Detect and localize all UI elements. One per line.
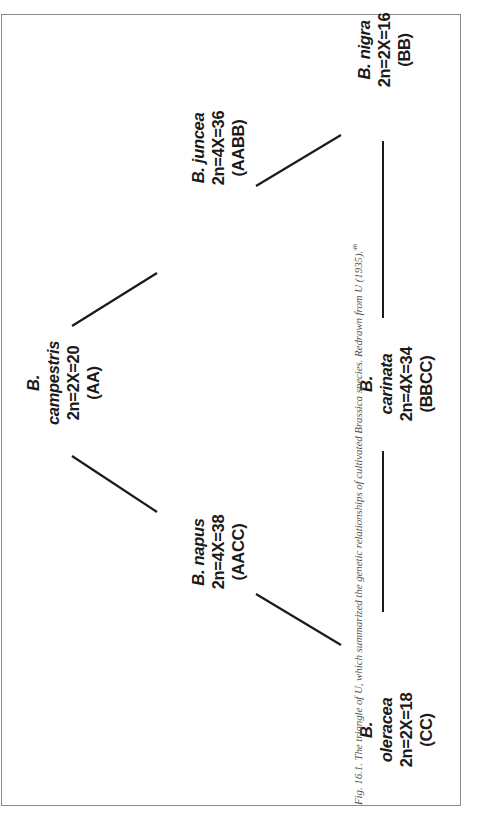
node-genome: (AACC) <box>228 497 248 607</box>
node-genome: (BBCC) <box>416 324 436 444</box>
node-species: campestris <box>43 323 63 443</box>
edge-campestris-napus <box>72 456 157 512</box>
node-genome: (CC) <box>416 670 436 790</box>
node-genus: B. <box>355 64 373 80</box>
node-species: nigra <box>355 20 373 59</box>
node-chromosomes: 2n=4X=34 <box>396 324 416 444</box>
edge-campestris-juncea <box>72 273 157 326</box>
node-oleracea: B. oleracea 2n=2X=18 (CC) <box>356 670 436 790</box>
node-species: carinata <box>376 324 396 444</box>
node-chromosomes: 2n=4X=38 <box>208 497 228 607</box>
node-genome: (BB) <box>394 0 414 105</box>
caption-text: The triangle of U, which summarized the … <box>352 251 364 761</box>
node-napus: B. napus 2n=4X=38 (AACC) <box>188 497 248 607</box>
edge-napus-oleracea <box>256 594 341 645</box>
node-species: oleracea <box>376 670 396 790</box>
node-carinata: B. carinata 2n=4X=34 (BBCC) <box>356 324 436 444</box>
caption-label: Fig. 16.1. <box>352 763 364 805</box>
node-genus: B. <box>189 167 207 183</box>
node-juncea: B. juncea 2n=4X=36 (AABB) <box>188 93 248 203</box>
node-chromosomes: 2n=2X=18 <box>396 670 416 790</box>
node-species: juncea <box>189 113 207 163</box>
node-genome: (AA) <box>83 323 103 443</box>
node-nigra: B. nigra 2n=2X=16 (BB) <box>354 0 414 105</box>
figure-caption: Fig. 16.1. The triangle of U, which summ… <box>351 95 365 805</box>
node-chromosomes: 2n=4X=36 <box>208 93 228 203</box>
node-genus: B. <box>189 570 207 586</box>
node-chromosomes: 2n=2X=20 <box>63 323 83 443</box>
node-genome: (AABB) <box>228 93 248 203</box>
node-genus: B. <box>23 323 43 443</box>
node-campestris: B. campestris 2n=2X=20 (AA) <box>23 323 103 443</box>
node-chromosomes: 2n=2X=16 <box>374 0 394 105</box>
node-species: napus <box>189 518 207 565</box>
caption-reference: 46 <box>351 244 359 251</box>
edge-juncea-nigra <box>256 135 341 186</box>
